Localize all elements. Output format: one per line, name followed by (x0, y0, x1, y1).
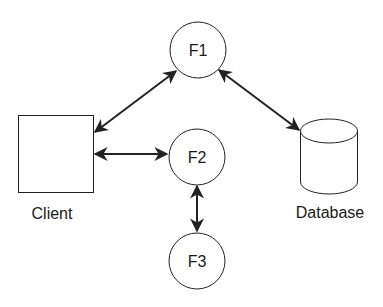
database-cylinder-top (301, 119, 358, 143)
client-label: Client (32, 205, 73, 222)
node-client[interactable]: Client (19, 116, 94, 223)
node-f2[interactable]: F2 (169, 129, 225, 185)
database-label: Database (296, 204, 365, 221)
f1-label: F1 (189, 42, 208, 59)
client-box (19, 116, 94, 193)
node-f3[interactable]: F3 (169, 233, 225, 289)
node-f1[interactable]: F1 (170, 22, 226, 78)
diagram-canvas: Client F1 F2 F3 Database (0, 0, 383, 307)
f2-label: F2 (188, 149, 207, 166)
node-database[interactable]: Database (296, 119, 365, 221)
edge-f1-database (219, 70, 299, 130)
edge-client-f1 (95, 71, 176, 132)
f3-label: F3 (188, 253, 207, 270)
